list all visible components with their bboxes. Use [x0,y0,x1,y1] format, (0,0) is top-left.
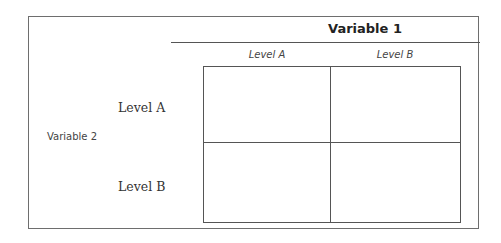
row-header-level-b: Level B [118,179,188,194]
variable1-label: Variable 1 [300,21,430,36]
column-header-level-b: Level B [331,49,459,60]
cell-a-b [331,67,460,142]
row-header-level-a: Level A [118,100,188,115]
variable2-label: Variable 2 [47,131,97,142]
column-header-level-a: Level A [203,49,331,60]
cell-b-a [204,143,330,222]
variable1-header-rule [171,42,480,43]
cell-b-b [331,143,460,222]
cell-a-a [204,67,330,142]
